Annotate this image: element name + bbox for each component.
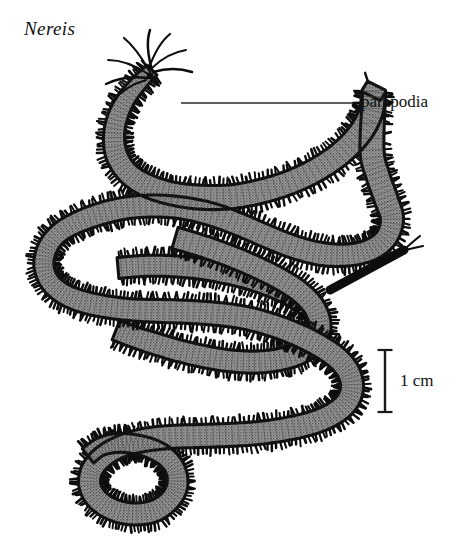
parapodia-label: parapodia	[361, 92, 428, 112]
taxon-name: Nereis	[24, 18, 75, 40]
scale-bar-label: 1 cm	[400, 371, 434, 391]
worm-body-group	[27, 61, 411, 533]
figure-container: Nereis parapodia 1 cm	[0, 0, 466, 555]
nereis-illustration	[0, 0, 466, 555]
head-appendages-group	[106, 30, 192, 102]
scale-bar	[378, 350, 393, 412]
